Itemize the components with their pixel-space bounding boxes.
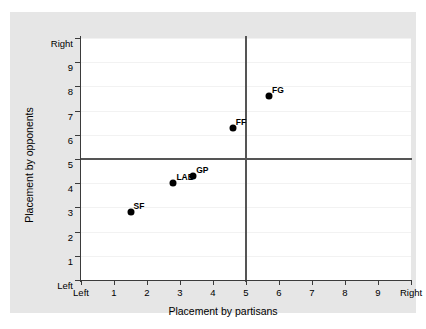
x-tick-label: 7 (309, 287, 314, 298)
graph-region: Left123456789Right Left123456789Right SF… (10, 12, 416, 313)
y-tick-label: 5 (68, 159, 73, 170)
y-tick-label: 9 (68, 62, 73, 73)
data-point-label: GP (196, 165, 208, 175)
y-tick-label: Right (51, 38, 73, 49)
x-tick-label: 2 (144, 287, 149, 298)
x-tick-label: Left (73, 287, 89, 298)
reference-line-horizontal (80, 158, 412, 159)
x-tick-label: 6 (276, 287, 281, 298)
x-tick-mark (114, 280, 115, 285)
x-axis-title: Placement by partisans (10, 305, 426, 317)
y-tick-mark (75, 38, 81, 39)
x-tick-label: 8 (342, 287, 347, 298)
x-tick-mark (147, 280, 148, 285)
y-tick-label: 7 (68, 111, 73, 122)
y-tick-mark (75, 135, 81, 136)
x-tick-label: 1 (111, 287, 116, 298)
x-tick-mark (345, 280, 346, 285)
y-tick-mark (75, 111, 81, 112)
data-point-label: SF (134, 201, 145, 211)
y-tick-mark (75, 280, 81, 281)
x-tick-label: 4 (210, 287, 215, 298)
y-axis-title: Placement by opponents (23, 70, 35, 260)
data-point-label: FG (272, 85, 284, 95)
x-tick-label: 3 (177, 287, 182, 298)
y-tick-mark (75, 256, 81, 257)
y-tick-mark (75, 86, 81, 87)
data-point-label: FF (236, 117, 246, 127)
x-tick-mark (279, 280, 280, 285)
y-tick-label: 4 (68, 183, 73, 194)
y-tick-label: Left (57, 280, 73, 291)
y-tick-label: 2 (68, 232, 73, 243)
x-tick-label: 5 (243, 287, 248, 298)
y-tick-mark (75, 159, 81, 160)
x-tick-mark (411, 280, 412, 285)
x-tick-mark (378, 280, 379, 285)
x-tick-mark (246, 280, 247, 285)
y-tick-label: 3 (68, 207, 73, 218)
x-tick-mark (312, 280, 313, 285)
x-tick-mark (81, 280, 82, 285)
x-tick-mark (213, 280, 214, 285)
x-tick-label: 9 (375, 287, 380, 298)
y-tick-label: 6 (68, 135, 73, 146)
y-tick-mark (75, 232, 81, 233)
y-tick-mark (75, 207, 81, 208)
y-tick-label: 1 (68, 256, 73, 267)
x-tick-label: Right (400, 287, 422, 298)
y-tick-mark (75, 62, 81, 63)
x-tick-mark (180, 280, 181, 285)
y-tick-label: 8 (68, 86, 73, 97)
y-tick-mark (75, 183, 81, 184)
